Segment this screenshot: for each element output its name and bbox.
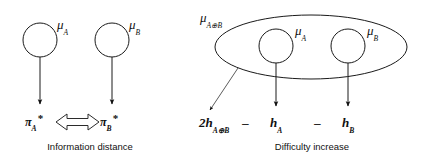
caption-difficulty-increase: Difficulty increase [222, 142, 402, 152]
label-pi-a-base: π [25, 115, 32, 129]
label-mu-b-inner-base: μ [367, 23, 374, 38]
label-mu-ab-sub: A⊕B [207, 21, 223, 30]
arrow-ellipse-to-h-ab [210, 68, 238, 110]
term-h-b: hB [342, 116, 354, 132]
term-h-a-sub: A [277, 126, 282, 135]
double-headed-block-arrow [56, 114, 99, 130]
label-mu-a-inner-base: μ [295, 23, 302, 38]
label-pi-b-star-glyph: * [113, 112, 119, 124]
label-pi-a-sub: A [32, 124, 37, 133]
term-h-b-sub: B [349, 126, 354, 135]
label-mu-a: μA [57, 18, 68, 34]
label-mu-b-sub: B [136, 28, 141, 37]
circle-mu-b [95, 23, 129, 57]
label-mu-b-inner: μB [367, 24, 378, 40]
operator-minus-2: – [314, 118, 321, 130]
operator-minus-1: – [242, 118, 249, 130]
term-two-h-base: h [206, 115, 213, 130]
term-two-h-ab: 2hA⊕B [199, 116, 229, 132]
label-mu-b-base: μ [129, 17, 136, 32]
label-pi-b-sub: B [107, 124, 112, 133]
term-two-h-sub: A⊕B [213, 126, 230, 135]
label-mu-a-sub: A [64, 28, 69, 37]
label-mu-a-base: μ [57, 17, 64, 32]
label-pi-a-star: πA* [25, 116, 42, 131]
label-pi-a-star-glyph: * [38, 112, 44, 124]
label-mu-b: μB [129, 18, 140, 34]
label-mu-ab-base: μ [200, 10, 207, 25]
figure-root: μA μB πA* πB* Information distance μA⊕B … [0, 0, 421, 158]
circle-mu-a-inner [259, 29, 293, 63]
circle-mu-b-inner [331, 29, 365, 63]
label-mu-a-inner: μA [295, 24, 306, 40]
term-h-a: hA [270, 116, 282, 132]
circle-mu-a [23, 23, 57, 57]
label-pi-b-star: πB* [100, 116, 117, 131]
caption-information-distance: Information distance [0, 142, 180, 152]
label-mu-a-xor-b: μA⊕B [200, 11, 222, 27]
label-pi-b-base: π [100, 115, 107, 129]
label-mu-b-inner-sub: B [374, 34, 379, 43]
label-mu-a-inner-sub: A [302, 34, 307, 43]
